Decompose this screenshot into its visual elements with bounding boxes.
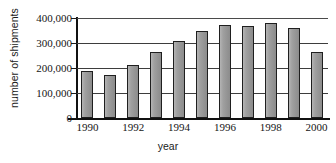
- x-tick-label: 1996: [214, 121, 236, 133]
- x-tick-label: 1992: [122, 121, 144, 133]
- bar: [242, 26, 254, 118]
- bar: [173, 41, 185, 119]
- bar: [104, 75, 116, 118]
- bar: [150, 52, 162, 118]
- y-tick-label: 400,000: [36, 12, 72, 24]
- bar: [265, 23, 277, 119]
- x-tick-label: 1990: [76, 121, 98, 133]
- x-tick-label: 1998: [260, 121, 282, 133]
- x-tick-label: 1994: [168, 121, 190, 133]
- bar: [288, 28, 300, 118]
- plot-area: [76, 18, 328, 118]
- bar: [81, 71, 93, 119]
- bar: [127, 65, 139, 118]
- bar-chart: number of shipments 0100,000200,000300,0…: [0, 0, 336, 163]
- x-axis-title: year: [0, 140, 336, 152]
- x-tick-label: 2000: [306, 121, 328, 133]
- x-axis-line: [68, 118, 330, 120]
- y-tick-label: 200,000: [36, 62, 72, 74]
- x-axis-tick-labels: 199019921994199619982000: [0, 121, 336, 139]
- y-tick-label: 100,000: [36, 87, 72, 99]
- bar: [196, 31, 208, 118]
- bar-series: [76, 18, 328, 118]
- bar: [219, 25, 231, 118]
- bar: [311, 52, 323, 118]
- y-tick-mark: [71, 118, 77, 119]
- y-tick-label: 300,000: [36, 37, 72, 49]
